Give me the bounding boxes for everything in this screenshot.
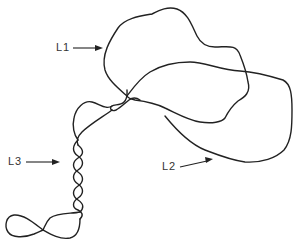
label-l3: L3 (8, 156, 22, 167)
label-l1: L1 (56, 42, 70, 53)
twisted-strand-l3 (74, 140, 83, 219)
arrow-l1 (73, 45, 103, 51)
arrow-l2 (180, 157, 213, 167)
figure-eight-loop (6, 215, 43, 237)
arrow-l3 (26, 159, 60, 165)
label-l2: L2 (162, 161, 176, 172)
connector-strand (73, 102, 112, 145)
loop-l1 (104, 8, 249, 123)
diagram-canvas: L1 L2 L3 (0, 0, 303, 244)
loop-l1-inner (127, 62, 292, 162)
strand-diagram (0, 0, 303, 244)
tail-strand (43, 212, 80, 238)
